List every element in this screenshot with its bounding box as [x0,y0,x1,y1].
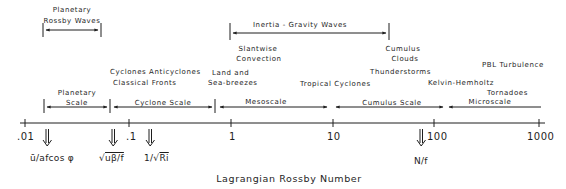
double-arrow-icon [417,129,426,146]
formula-u-over-afcosphi: ū/afcos φ [30,154,74,163]
planetary-rossby-waves-label-1: Planetary [53,7,92,14]
cumulus-clouds-label-1: Cumulus [386,46,421,53]
double-arrow-icon [109,129,118,146]
planetary-scale-label-2: Scale [66,100,88,107]
cyclones-anticyclones-label: Cyclones Anticyclones [110,69,201,76]
classical-fronts-label: Classical Fronts [113,80,177,87]
thunderstorms-label: Thunderstorms [370,69,431,76]
formula-prefix: 1/ [144,153,153,163]
land-sea-breezes-label-1: Land and [212,70,249,77]
microscale-label: Microscale [469,99,512,106]
planetary-rossby-waves-label-2: Rossby Waves [44,18,101,25]
cumulus-scale-label: Cumulus Scale [362,100,421,107]
kelvin-helmholtz-label: Kelvin-Hemholtz [428,80,494,87]
land-sea-breezes-label-2: Sea-breezes [208,80,258,87]
pbl-turbulence-label: PBL Turbulence [482,62,544,69]
tornadoes-label: Tornadoes [487,90,528,97]
tick-label-0.1: .1 [126,132,137,142]
slantwise-convection-label-2: Convection [236,56,281,63]
tick-label-10: 10 [327,132,341,142]
slantwise-convection-label-1: Slantwise [239,46,278,53]
formula-n-over-f: N/f [414,157,428,166]
mesoscale-label: Mesoscale [245,99,287,106]
tick-label-0.01: .01 [17,132,34,142]
cumulus-clouds-label-2: Clouds [391,56,418,63]
formula-one-over-sqrt-ri: 1/√Ri [144,154,169,163]
double-arrow-icon [146,129,155,146]
axis-title: Lagrangian Rossby Number [216,174,362,184]
tick-label-1: 1 [229,132,236,142]
formula-sqrt-u-beta-over-f: √uβ/f [99,154,124,163]
cyclone-scale-label: Cyclone Scale [135,100,192,107]
tick-label-100: 100 [427,132,448,142]
formula-radicand: uβ/f [105,153,124,163]
tropical-cyclones-label: Tropical Cyclones [300,81,371,88]
tick-label-1000: 1000 [527,132,554,142]
inertia-gravity-waves-label: Inertia - Gravity Waves [253,22,347,29]
formula-radicand: Ri [159,153,168,163]
planetary-rossby-waves-range [43,23,101,37]
planetary-scale-label-1: Planetary [58,90,97,97]
double-arrow-icon [43,129,52,146]
rossby-number-axis [20,119,545,127]
